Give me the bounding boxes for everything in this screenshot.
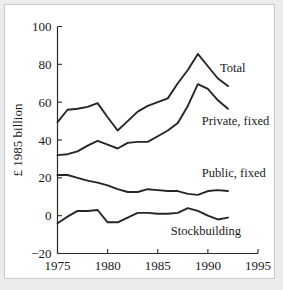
y-tick-label: 0 — [45, 208, 52, 223]
y-tick-label: 20 — [39, 170, 52, 185]
series-line-stockbuilding — [58, 208, 228, 223]
x-axis-tick-labels: 19751980198519901995 — [45, 258, 272, 273]
series-lines — [58, 54, 228, 223]
y-axis-tick-labels: −20020406080100 — [31, 19, 51, 261]
y-axis-title: £ 1985 billion — [10, 103, 25, 176]
series-label-public-fixed: Public, fixed — [202, 166, 267, 180]
series-labels: TotalPrivate, fixedPublic, fixedStockbui… — [171, 61, 270, 238]
x-tick-label: 1995 — [245, 258, 271, 273]
y-axis-ticks — [58, 27, 63, 254]
x-axis-ticks — [58, 249, 259, 254]
line-chart-plot: −20020406080100 19751980198519901995 £ 1… — [0, 0, 283, 290]
chart-figure: −20020406080100 19751980198519901995 £ 1… — [0, 0, 283, 290]
series-label-private-fixed: Private, fixed — [202, 114, 270, 128]
series-label-total: Total — [220, 61, 246, 75]
x-tick-label: 1990 — [195, 258, 221, 273]
y-tick-label: 60 — [39, 95, 52, 110]
x-tick-label: 1975 — [45, 258, 71, 273]
series-label-stockbuilding: Stockbuilding — [171, 224, 242, 238]
x-tick-label: 1980 — [95, 258, 121, 273]
y-tick-label: 40 — [39, 133, 52, 148]
y-tick-label: 80 — [39, 57, 52, 72]
y-tick-label: 100 — [32, 19, 52, 34]
x-tick-label: 1985 — [145, 258, 171, 273]
